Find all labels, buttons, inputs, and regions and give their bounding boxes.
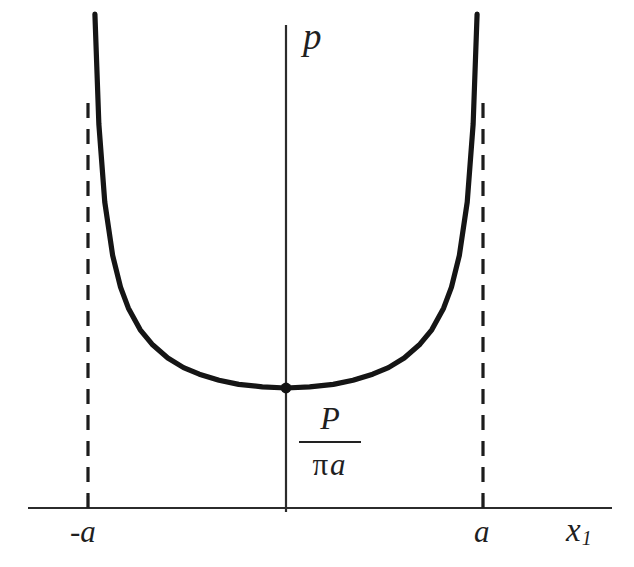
x-tick-label-minus-a: -a <box>70 516 96 547</box>
x-axis-label-base: x <box>566 512 581 548</box>
fraction-bar <box>299 441 361 443</box>
pi-symbol: π <box>312 447 330 482</box>
denominator-a: a <box>330 447 348 482</box>
minimum-point-marker <box>281 383 292 394</box>
x-axis-label-subscript: 1 <box>581 527 592 549</box>
y-axis-label: p <box>303 18 322 55</box>
minimum-value-annotation: P πa <box>297 400 363 482</box>
pressure-distribution-figure: p -a a x1 P πa <box>0 0 634 567</box>
x-tick-label-plus-a: a <box>474 516 490 547</box>
x-axis-label: x1 <box>566 514 592 548</box>
fraction-numerator: P <box>297 400 363 439</box>
fraction-denominator: πa <box>297 446 363 483</box>
